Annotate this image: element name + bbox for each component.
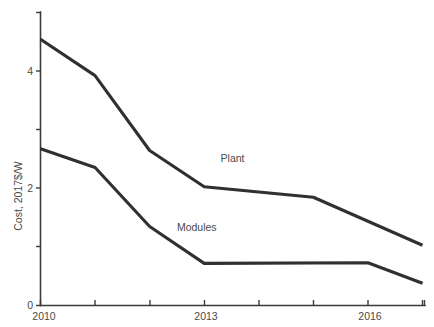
series-line-modules	[41, 149, 423, 284]
x-axis-ticks	[41, 300, 423, 306]
series-line-plant	[41, 39, 423, 245]
chart-container: Cost, 2017$/W 0 2 4	[0, 0, 434, 327]
series-label-plant: Plant	[221, 152, 245, 164]
x-tick-label-2010: 2010	[32, 310, 56, 322]
y-tick-label-2: 2	[27, 182, 33, 194]
x-tick-label-2016: 2016	[358, 310, 382, 322]
x-axis-labels: 2010 2013 2016	[32, 310, 382, 322]
y-tick-label-4: 4	[27, 65, 33, 77]
series-annotations: Plant Modules	[177, 152, 245, 232]
x-tick-label-2013: 2013	[194, 310, 218, 322]
cost-trend-line-chart: Cost, 2017$/W 0 2 4	[0, 0, 434, 327]
series-label-modules: Modules	[177, 221, 217, 233]
y-axis-title: Cost, 2017$/W	[12, 161, 24, 231]
y-axis-labels: 0 2 4	[27, 65, 33, 312]
